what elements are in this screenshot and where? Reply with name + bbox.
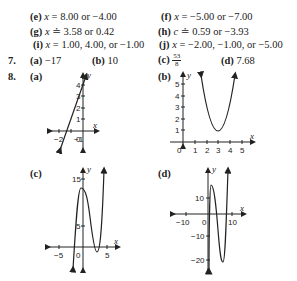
svg-text:10: 10 [228,218,237,227]
graphs-canvas: −1−20 1234 yx 012 345 123 45 yx −505 515… [0,0,297,281]
svg-text:y: y [86,164,91,174]
svg-text:5: 5 [76,222,81,231]
svg-text:10: 10 [195,194,204,203]
svg-text:2: 2 [175,115,180,124]
svg-text:15: 15 [72,175,81,184]
svg-text:y: y [211,164,216,174]
svg-text:0: 0 [76,251,81,260]
svg-text:y: y [86,70,91,80]
svg-text:5: 5 [105,251,110,260]
graph-b [170,74,253,146]
svg-text:3: 3 [216,146,221,155]
graph-a-labels: −1−20 1234 yx [54,70,97,144]
svg-text:x: x [92,120,97,130]
svg-text:1: 1 [193,146,198,155]
svg-text:0: 0 [177,146,182,155]
parabola-curve [201,75,235,131]
svg-text:x: x [239,203,244,213]
svg-text:3: 3 [175,103,180,112]
svg-text:−10: −10 [176,218,190,227]
svg-text:−20: −20 [191,256,205,265]
svg-text:4: 4 [175,92,180,101]
svg-text:4: 4 [76,81,81,90]
svg-text:y: y [186,70,191,80]
svg-text:x: x [249,131,254,141]
svg-text:0: 0 [76,135,81,144]
svg-text:5: 5 [175,80,180,89]
svg-text:−5: −5 [54,251,64,260]
svg-text:3: 3 [76,92,81,101]
svg-text:4: 4 [228,146,233,155]
svg-text:x: x [113,236,118,246]
svg-text:1: 1 [76,115,81,124]
svg-text:2: 2 [76,104,81,113]
svg-text:−10: −10 [191,232,205,241]
svg-text:5: 5 [240,146,245,155]
svg-text:1: 1 [175,126,180,135]
svg-text:0: 0 [202,218,207,227]
svg-text:2: 2 [205,146,210,155]
graph-c-labels: −505 515 yx [54,164,118,260]
cubic-function-curve [209,170,228,271]
svg-text:−2: −2 [54,135,64,144]
